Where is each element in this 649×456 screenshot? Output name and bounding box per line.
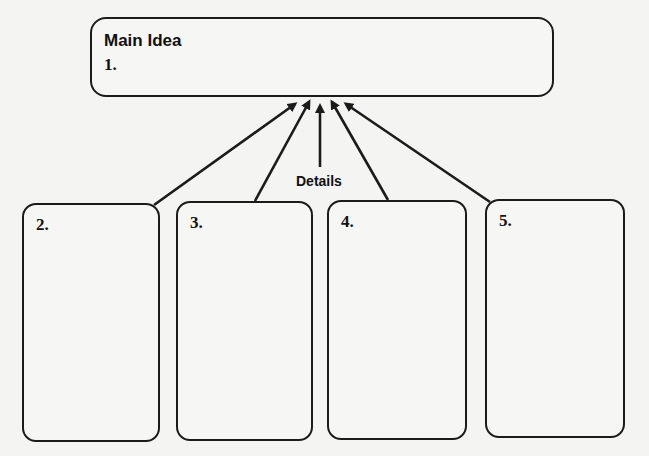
- detail-number: 2.: [36, 215, 49, 235]
- detail-box-3: 3.: [176, 201, 313, 441]
- detail-box-2: 2.: [22, 203, 160, 442]
- arrow-2-to-main: [154, 104, 295, 205]
- detail-number: 3.: [190, 213, 203, 233]
- detail-number: 5.: [499, 211, 512, 231]
- detail-box-4: 4.: [327, 200, 467, 440]
- detail-number: 4.: [341, 212, 354, 232]
- detail-box-5: 5.: [485, 199, 625, 438]
- arrow-5-to-main: [346, 104, 490, 202]
- details-label: Details: [296, 173, 342, 189]
